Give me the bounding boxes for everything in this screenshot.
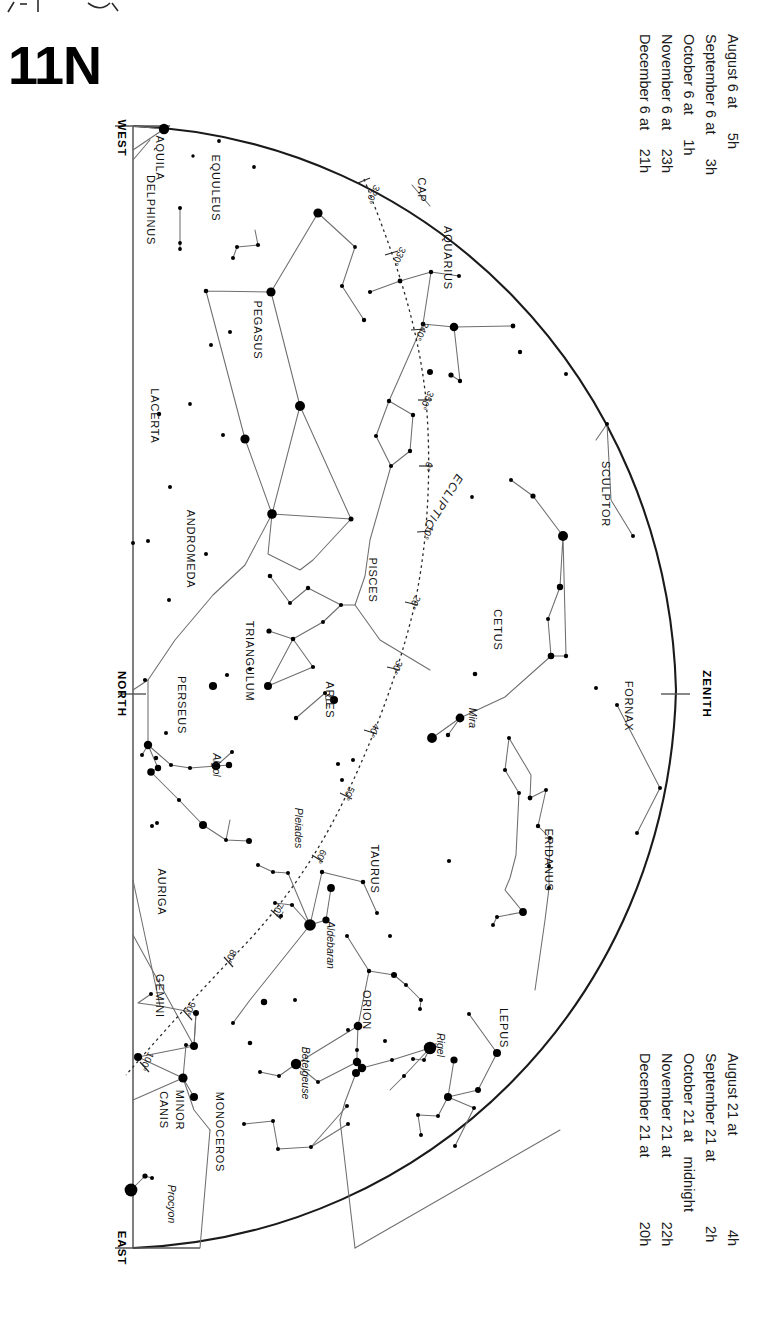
star-dot	[658, 786, 662, 790]
constellation-label: DELPHINUS	[145, 175, 157, 245]
constellation-label: ERIDANUS	[543, 828, 555, 891]
star-dot	[267, 509, 277, 519]
star-dot	[472, 1106, 476, 1110]
star-dot	[419, 998, 423, 1002]
star-dot	[268, 574, 273, 579]
star-dot	[291, 637, 296, 642]
star-dot	[146, 539, 150, 543]
star-dot	[544, 788, 548, 792]
star-dot	[231, 1021, 235, 1025]
star-dot	[362, 318, 366, 322]
star-dot	[511, 324, 516, 329]
star-dot	[447, 859, 451, 863]
star-dot	[155, 765, 161, 771]
star-dot	[493, 1049, 501, 1057]
star-dot	[491, 923, 495, 927]
star-dot	[178, 247, 182, 251]
stars-layer	[125, 124, 662, 1197]
star-dot	[351, 758, 355, 762]
star-dot	[530, 493, 535, 498]
star-dot	[188, 766, 192, 770]
star-dot	[131, 541, 135, 545]
star-dot	[313, 208, 322, 217]
constellation-label: PEGASUS	[252, 301, 264, 360]
constellation-label: ORION	[361, 990, 373, 1030]
star-dot	[316, 1080, 320, 1084]
star-dot	[467, 1012, 471, 1016]
star-dot	[149, 992, 153, 996]
star-dot	[177, 798, 181, 802]
star-dot	[389, 464, 393, 468]
named-star-label: Betelgeuse	[300, 1047, 312, 1100]
star-dot	[339, 603, 343, 607]
star-dot	[352, 1069, 360, 1077]
constellation-label: MONOCEROS	[214, 1092, 226, 1173]
star-dot	[266, 628, 271, 633]
star-dot	[457, 274, 461, 278]
star-dot	[605, 422, 609, 426]
star-dot	[528, 796, 533, 801]
constellation-label: GEMINI	[154, 974, 166, 1018]
star-dot	[473, 672, 478, 677]
constellation-label: AQUILA	[154, 135, 166, 180]
star-dot	[635, 831, 639, 835]
constellation-label: MINOR	[174, 1090, 186, 1131]
star-dot	[404, 983, 408, 987]
star-dot	[286, 871, 290, 875]
cardinal-label-east: EAST	[116, 1231, 128, 1266]
star-dot	[221, 433, 225, 437]
star-dot	[418, 1007, 422, 1011]
star-dot	[276, 1147, 280, 1151]
named-star-label: Rigel	[435, 1033, 447, 1058]
ecliptic-degree-label: 330°	[390, 245, 409, 268]
star-dot	[154, 756, 158, 760]
star-dot	[387, 399, 391, 403]
star-dot	[155, 821, 159, 825]
star-dot	[416, 1113, 420, 1117]
star-dot	[361, 880, 366, 885]
star-dot	[340, 284, 344, 288]
named-star-label: Aldebaran	[325, 920, 337, 969]
star-dot	[191, 154, 194, 157]
cardinal-label-west: WEST	[116, 119, 128, 156]
star-dot	[411, 413, 415, 417]
star-dot	[217, 139, 221, 143]
star-dot	[367, 969, 371, 973]
constellation-label: LEPUS	[498, 1008, 510, 1048]
star-dot	[631, 534, 635, 538]
star-dot	[450, 323, 459, 332]
constellation-label: PISCES	[367, 557, 379, 602]
horizon-frame	[115, 126, 690, 1248]
star-dot	[458, 379, 462, 383]
star-dot	[446, 733, 450, 737]
star-dot	[291, 1059, 301, 1069]
star-dot	[188, 402, 192, 406]
star-dot	[178, 206, 182, 210]
star-dot	[306, 586, 310, 590]
star-dot	[519, 908, 527, 916]
ecliptic-degree-label: 30°	[389, 659, 406, 677]
constellation-label: FORNAX	[623, 681, 635, 732]
star-dot	[422, 1058, 426, 1062]
constellation-label: CAP	[416, 177, 428, 202]
star-dot	[204, 552, 208, 556]
star-dot	[470, 495, 474, 499]
star-dot	[248, 1041, 253, 1046]
star-dot	[546, 617, 550, 621]
named-star-label: Mira	[467, 708, 479, 729]
star-dot	[320, 870, 324, 874]
star-dot	[159, 124, 169, 134]
constellation-label: AQUARIUS	[442, 226, 454, 290]
star-dot	[293, 998, 297, 1002]
star-dot	[345, 1104, 349, 1108]
star-dot	[408, 449, 412, 453]
star-dot	[204, 289, 209, 294]
star-dot	[209, 343, 213, 347]
named-star-label: Procyon	[166, 1185, 178, 1224]
star-dot	[277, 1074, 281, 1078]
star-dot	[427, 733, 437, 743]
star-dot	[424, 1042, 436, 1054]
constellation-label: EQUULEUS	[210, 155, 222, 222]
star-dot	[140, 753, 144, 757]
star-dot	[411, 1057, 415, 1061]
